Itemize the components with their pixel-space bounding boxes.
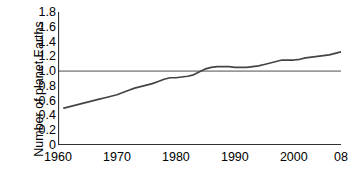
y-tick-label: 0.8 — [39, 79, 56, 93]
y-tick-label: 1.0 — [39, 64, 56, 78]
data-line-ecological-footprint — [64, 52, 341, 108]
x-tick-label: 1980 — [162, 150, 190, 164]
x-tick-label: 2000 — [280, 150, 308, 164]
ecological-footprint-chart: Number of planet Earths 1.81.61.41.21.00… — [0, 0, 363, 178]
y-tick-label: 1.4 — [39, 35, 56, 49]
x-tick-label: 1970 — [103, 150, 131, 164]
x-tick-label: 1990 — [221, 150, 249, 164]
y-tick-label: 0.2 — [39, 123, 56, 137]
y-tick-label: 1.6 — [39, 20, 56, 34]
y-tick-label: 1.8 — [39, 5, 56, 19]
y-tick-label: 0.4 — [39, 108, 56, 122]
plot-area — [58, 12, 341, 145]
y-axis-tick-labels: 1.81.61.41.21.00.80.60.40.20 — [31, 6, 56, 151]
chart-svg — [58, 12, 341, 145]
y-tick-label: 1.2 — [39, 49, 56, 63]
x-axis-tick-labels: 1960197019801990200008 — [0, 150, 363, 170]
y-tick-label: 0.6 — [39, 94, 56, 108]
x-tick-label: 1960 — [44, 150, 72, 164]
x-tick-label: 08 — [334, 150, 348, 164]
